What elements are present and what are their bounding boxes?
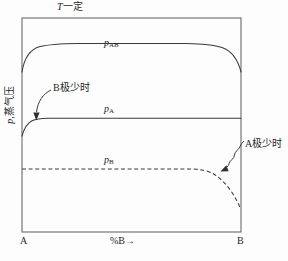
annotation-arrow-b	[37, 90, 52, 112]
annotation-label-a-scarce: A极少时	[245, 139, 282, 149]
series-label-p-ab: pAB	[104, 38, 119, 49]
curve-p-ab	[22, 43, 241, 72]
x-axis-title: %B→	[110, 236, 135, 246]
y-axis-title: p,蒸气压	[5, 75, 15, 135]
series-label-p-b: pB	[104, 155, 114, 166]
plot-frame	[22, 18, 241, 232]
series-label-p-a: pA	[104, 104, 114, 115]
annotation-label-b-scarce: B极少时	[53, 83, 90, 93]
y-axis-title-symbol: p	[4, 119, 15, 124]
y-axis-title-text: ,蒸气压	[4, 86, 15, 119]
chart-title: T一定	[57, 2, 83, 12]
curve-p-a	[22, 118, 241, 136]
x-axis-tick-b: B	[237, 236, 244, 246]
curve-p-b	[22, 169, 241, 209]
series-label-p-b-subscript: B	[109, 158, 114, 166]
series-label-p-a-subscript: A	[109, 107, 114, 115]
vapor-pressure-diagram: T一定 pAB pA pB B极少时 A极少时 A B %B→ p,蒸气压	[0, 0, 288, 261]
series-label-p-ab-subscript: AB	[109, 41, 119, 49]
x-axis-tick-a: A	[20, 236, 27, 246]
plot-canvas	[0, 0, 288, 261]
chart-title-text: 一定	[63, 1, 83, 12]
